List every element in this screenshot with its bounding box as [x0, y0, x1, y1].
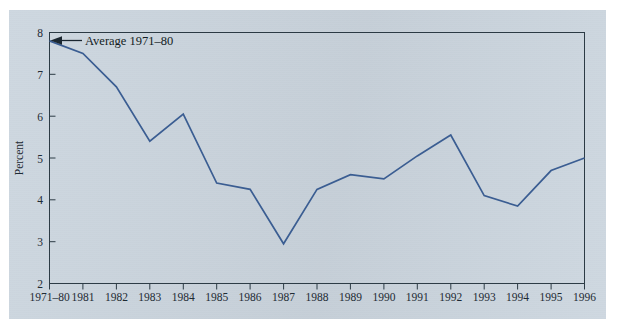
x-tick-label: 1984: [172, 291, 195, 303]
line-chart: 8 7 6 5 4 3 2 Percent: [9, 10, 606, 319]
data-series-line: [50, 41, 585, 244]
x-tick-label: 1993: [473, 291, 496, 303]
x-tick-label: 1986: [239, 291, 262, 303]
x-tick-label: 1991: [406, 291, 429, 303]
y-axis-labels: 8 7 6 5 4 3 2: [37, 27, 43, 290]
x-tick-label: 1988: [306, 291, 329, 303]
y-axis-title: Percent: [13, 140, 25, 175]
plot-frame: [50, 33, 585, 284]
x-tick-label: 1989: [339, 291, 362, 303]
x-tick-label: 1990: [372, 291, 395, 303]
y-tick-label: 7: [37, 69, 43, 81]
annotation-text: Average 1971–80: [85, 34, 173, 48]
y-tick-label: 8: [37, 27, 43, 39]
figure-page: 8 7 6 5 4 3 2 Percent: [0, 0, 619, 328]
x-tick-label: 1971–80: [29, 291, 70, 303]
x-axis-ticks: [50, 284, 585, 290]
x-tick-label: 1983: [138, 291, 161, 303]
y-tick-label: 6: [37, 111, 43, 123]
chart-panel: 8 7 6 5 4 3 2 Percent: [9, 10, 606, 319]
y-tick-label: 5: [37, 153, 43, 165]
x-tick-label: 1996: [573, 291, 596, 303]
y-tick-label: 2: [37, 278, 43, 290]
x-axis-labels: 1971–80 1981 1982 1983 1984 1985 1986 19…: [29, 291, 596, 303]
y-tick-label: 3: [37, 236, 43, 248]
annotation-average-1971-80: Average 1971–80: [51, 34, 174, 48]
x-tick-label: 1982: [105, 291, 128, 303]
x-tick-label: 1987: [272, 291, 295, 303]
x-tick-label: 1985: [205, 291, 228, 303]
x-tick-label: 1995: [540, 291, 563, 303]
x-tick-label: 1992: [439, 291, 462, 303]
x-tick-label: 1994: [506, 291, 529, 303]
y-axis-ticks: [50, 33, 56, 284]
x-tick-label: 1981: [71, 291, 94, 303]
y-tick-label: 4: [37, 194, 43, 206]
